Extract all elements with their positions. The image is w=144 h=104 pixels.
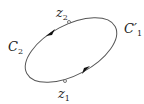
label-c1-prime: C′1 (124, 22, 142, 38)
label-c2: C2 (8, 40, 23, 56)
label-z2: z2 (56, 6, 68, 22)
arrow-c1-icon (82, 66, 90, 74)
point-z1-marker (64, 80, 67, 83)
label-z1: z1 (58, 87, 70, 103)
closed-contour (15, 4, 127, 95)
